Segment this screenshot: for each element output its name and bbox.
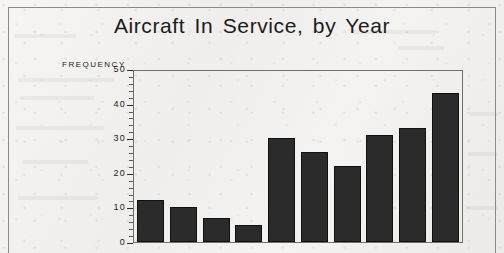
bar (268, 138, 295, 242)
y-axis-tick-label: 40 (114, 99, 126, 109)
bar-series (134, 71, 462, 242)
y-axis-tick-label: 0 (120, 237, 126, 247)
plot-area (133, 70, 463, 243)
y-axis-major-tick (127, 243, 133, 244)
bar (334, 166, 361, 242)
y-axis-tick-labels: 50403020100 (93, 0, 126, 253)
y-axis-tick-label: 50 (114, 64, 126, 74)
bar (399, 128, 426, 242)
y-axis-tick-label: 20 (114, 168, 126, 178)
bar (235, 225, 262, 242)
bar (137, 200, 164, 242)
figure-page: Aircraft In Service, by Year FREQUENCY 5… (0, 0, 504, 253)
bar (203, 218, 230, 242)
bar (170, 207, 197, 242)
bar (301, 152, 328, 242)
chart-title: Aircraft In Service, by Year (0, 14, 504, 38)
bar (366, 135, 393, 242)
y-axis-tick-label: 10 (114, 202, 126, 212)
bar (432, 93, 459, 242)
y-axis-tick-label: 30 (114, 133, 126, 143)
